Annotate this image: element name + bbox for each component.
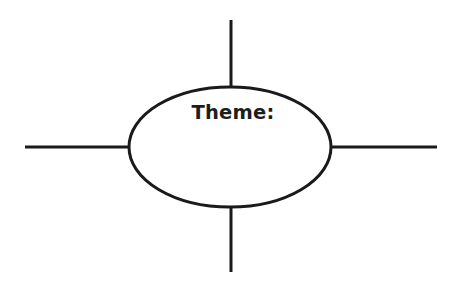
worksheet-canvas: Theme: (0, 0, 454, 281)
theme-web-diagram: Theme: (0, 0, 454, 281)
center-theme-label: Theme: (192, 101, 275, 124)
